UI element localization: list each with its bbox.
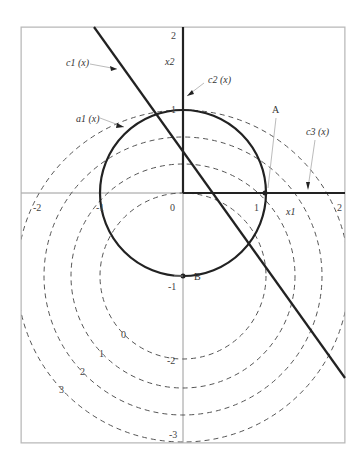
x-tick: 1 bbox=[254, 202, 259, 213]
A-leader bbox=[268, 118, 276, 188]
y-tick: 1 bbox=[171, 104, 176, 115]
label-c1: c1 (x) bbox=[66, 57, 90, 69]
a1-arrow-icon bbox=[116, 123, 124, 128]
label-point-A: A bbox=[272, 104, 280, 115]
contour-label: -2 bbox=[167, 355, 175, 366]
x-tick: 0 bbox=[170, 202, 175, 213]
y-axis-label: x2 bbox=[164, 56, 174, 67]
y-tick: 2 bbox=[171, 30, 176, 41]
contour-label: 1 bbox=[99, 348, 104, 359]
contour-label: -3 bbox=[169, 429, 177, 440]
x-tick: -1 bbox=[96, 202, 104, 213]
point-A-marker bbox=[263, 191, 268, 196]
label-c3: c3 (x) bbox=[306, 126, 330, 138]
contour-label: 2 bbox=[80, 366, 85, 377]
c3-leader bbox=[308, 140, 315, 188]
c2-arrow-icon bbox=[187, 90, 194, 96]
label-c2: c2 (x) bbox=[208, 74, 232, 86]
label-point-B: B bbox=[194, 271, 201, 282]
x-tick: -2 bbox=[33, 202, 41, 213]
x-axis-label: x1 bbox=[285, 206, 295, 217]
contour-label: 0 bbox=[121, 329, 126, 340]
constraint-diagram: c1 (x) a1 (x) c2 (x) c3 (x) A B x2 x1 -2… bbox=[0, 0, 364, 465]
label-a1: a1 (x) bbox=[76, 113, 100, 125]
y-tick: -1 bbox=[168, 281, 176, 292]
x-tick: 2 bbox=[337, 202, 342, 213]
contour-label: 3 bbox=[59, 384, 64, 395]
c3-arrow-icon bbox=[306, 182, 310, 190]
